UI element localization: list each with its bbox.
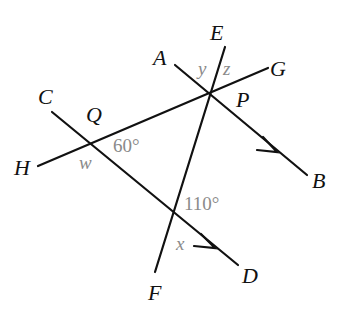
point-label-F: F [147,280,162,305]
angle-label-60: 60° [113,135,140,156]
point-label-P: P [235,87,249,112]
angle-label-y: y [196,58,207,79]
point-label-G: G [270,56,286,81]
parallel-arrow-icon [257,137,277,152]
angle-label-w: w [79,152,92,173]
point-label-A: A [151,45,167,70]
line-EF [155,47,225,272]
line-HG [38,68,268,166]
point-label-C: C [38,84,53,109]
point-label-B: B [312,168,325,193]
angle-label-x: x [175,233,185,254]
point-label-H: H [13,155,31,180]
parallel-arrow-icon [194,234,215,248]
point-label-E: E [209,20,224,45]
line-AB [175,65,307,175]
angle-label-110: 110° [184,193,219,214]
angle-label-z: z [222,58,231,79]
point-label-D: D [241,263,258,288]
geometry-diagram: E A G P C Q H B D F y z 60° w 110° x [0,0,343,310]
point-label-Q: Q [86,102,102,127]
